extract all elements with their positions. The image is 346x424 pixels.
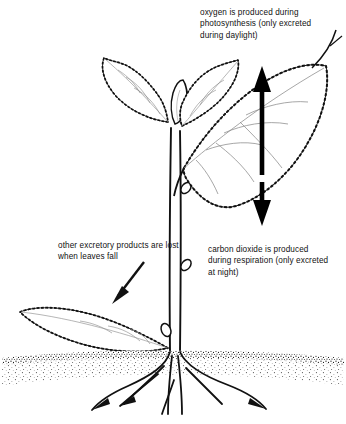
fallen-leaf [20,308,168,352]
plant-illustration [0,0,346,424]
plant-excretion-diagram: oxygen is produced during photosynthesis… [0,0,346,424]
annotation-excretory-products: other excretory products are lost when l… [58,240,188,263]
annotation-oxygen: oxygen is produced during photosynthesis… [200,7,328,41]
annotation-carbon-dioxide: carbon dioxide is produced during respir… [208,244,330,278]
upper-leaf-left [102,58,168,122]
root-tips [92,396,266,410]
excretory-pointer-arrow [112,262,144,304]
